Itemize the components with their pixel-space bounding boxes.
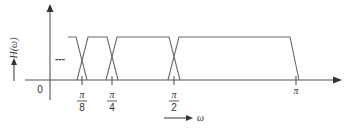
svg-text:8: 8 — [79, 102, 85, 113]
svg-text:π: π — [171, 89, 177, 100]
x-axis-label: ω — [197, 112, 204, 123]
x-axis-arrowhead-icon — [333, 77, 342, 84]
x-axis — [25, 77, 342, 84]
y-axis-label: H(ω) — [8, 37, 20, 60]
right-arrow-icon — [186, 115, 193, 121]
x-axis-label-group: ω — [164, 112, 204, 123]
filter-bank-diagram: H(ω) 0 --- π 8 π 4 π 2 π — [0, 0, 353, 128]
y-axis-arrowhead-icon — [47, 4, 54, 12]
ellipsis: --- — [55, 53, 65, 64]
y-axis — [47, 4, 54, 100]
band-pi-2-to-pi — [168, 37, 299, 80]
tick-label-pi-8: π 8 — [77, 89, 87, 113]
band-responses — [68, 37, 299, 80]
band-pi-4-to-pi-2 — [106, 37, 180, 80]
y-axis-label-group: H(ω) — [8, 37, 20, 81]
svg-text:π: π — [79, 89, 85, 100]
tick-label-pi: π — [293, 85, 299, 96]
band-below-pi-8 — [68, 37, 87, 80]
tick-label-pi-2: π 2 — [169, 89, 179, 113]
svg-text:2: 2 — [171, 102, 177, 113]
tick-label-pi-4: π 4 — [107, 89, 117, 113]
origin-label: 0 — [37, 84, 43, 95]
svg-text:π: π — [293, 85, 299, 96]
svg-text:4: 4 — [109, 102, 115, 113]
svg-text:π: π — [109, 89, 115, 100]
